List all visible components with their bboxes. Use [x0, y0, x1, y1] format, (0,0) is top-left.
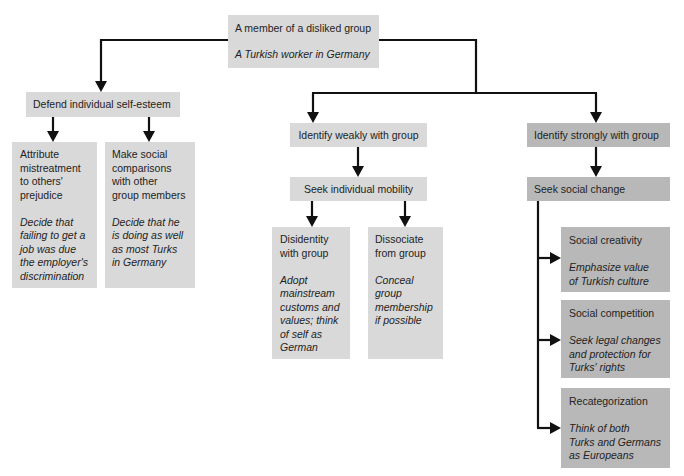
node-example: Decide that failing to get a job was due…: [20, 216, 94, 284]
arrow-down-icon: [95, 81, 107, 92]
arrow-right-icon: [550, 422, 561, 434]
node-label: Defend individual self-esteem: [33, 98, 171, 110]
arrow-down-icon: [399, 216, 411, 227]
arrow-down-icon: [307, 112, 319, 123]
node-social-comparisons: Make social comparisons with other group…: [105, 142, 195, 288]
node-title: Make social comparisons with other group…: [112, 148, 193, 202]
node-title: Attribute mistreatment to others' prejud…: [20, 148, 94, 202]
arrow-right-icon: [550, 252, 561, 264]
node-example: Decide that he is doing as well as most …: [112, 216, 193, 270]
arrow-down-icon: [590, 112, 602, 123]
node-attribute-mistreatment: Attribute mistreatment to others' prejud…: [12, 142, 97, 288]
node-title: Dissociate from group: [375, 233, 441, 260]
arrow-down-icon: [47, 131, 59, 142]
connector-strong-to-social-change: [590, 147, 602, 177]
node-title: Social creativity: [569, 234, 668, 248]
flowchart-canvas: A member of a disliked group A Turkish w…: [0, 0, 684, 476]
node-title: Social competition: [569, 307, 668, 321]
node-label: Identify weakly with group: [298, 129, 418, 141]
node-defend-self-esteem: Defend individual self-esteem: [26, 92, 180, 117]
node-recategorization: Recategorization Think of both Turks and…: [561, 388, 670, 468]
node-social-creativity: Social creativity Emphasize value of Tur…: [561, 227, 670, 292]
node-label: Seek social change: [534, 183, 625, 195]
arrow-down-icon: [306, 216, 318, 227]
arrow-right-icon: [550, 334, 561, 346]
node-individual-mobility: Seek individual mobility: [290, 177, 427, 201]
node-identify-strongly: Identify strongly with group: [527, 123, 670, 147]
node-label: Identify strongly with group: [534, 129, 659, 141]
node-title: Disidentity with group: [280, 233, 348, 260]
node-example: Adopt mainstream customs and values; thi…: [280, 274, 348, 355]
arrow-down-icon: [352, 166, 364, 177]
connector-root-to-defend: [95, 40, 228, 92]
connector-social-change-to-children: [537, 201, 561, 434]
node-example: Conceal group membership if possible: [375, 274, 441, 328]
arrow-down-icon: [143, 131, 155, 142]
node-example: Think of both Turks and Germans as Europ…: [569, 422, 668, 463]
node-disidentity: Disidentity with group Adopt mainstream …: [272, 227, 350, 359]
node-example: A Turkish worker in Germany: [235, 48, 372, 62]
node-example: Seek legal changes and protection for Tu…: [569, 334, 668, 375]
arrow-down-icon: [590, 166, 602, 177]
node-dissociate: Dissociate from group Conceal group memb…: [368, 227, 443, 359]
connector-defend-to-children: [47, 117, 155, 142]
node-identify-weakly: Identify weakly with group: [290, 123, 427, 147]
node-social-change: Seek social change: [527, 177, 670, 201]
connector-weak-to-mobility: [352, 147, 364, 177]
node-root-disliked-group: A member of a disliked group A Turkish w…: [228, 15, 379, 68]
node-example: Emphasize value of Turkish culture: [569, 261, 668, 288]
node-social-competition: Social competition Seek legal changes an…: [561, 300, 670, 378]
node-title: A member of a disliked group: [235, 22, 372, 36]
node-title: Recategorization: [569, 395, 668, 409]
node-label: Seek individual mobility: [304, 183, 413, 195]
connector-mobility-to-children: [306, 201, 411, 227]
